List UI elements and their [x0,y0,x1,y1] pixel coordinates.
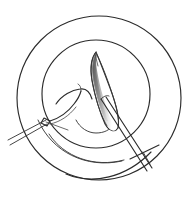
paper-background [0,0,183,199]
surgical-illustration-svg [0,0,183,199]
illustration-canvas: Otologic surgical illustration Line draw… [0,0,183,199]
